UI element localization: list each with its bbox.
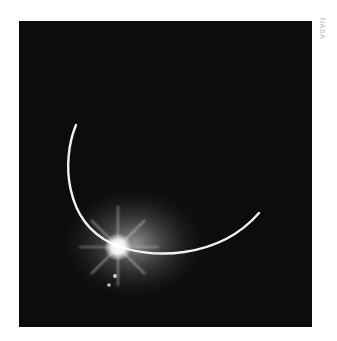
lens-reflection — [107, 283, 111, 287]
sun-flare — [104, 233, 132, 261]
sun-glow — [54, 181, 214, 305]
eclipse-illustration — [19, 21, 312, 327]
eclipse-photo — [19, 21, 312, 327]
photo-credit: NASA — [319, 18, 326, 39]
lens-reflection — [113, 274, 117, 278]
